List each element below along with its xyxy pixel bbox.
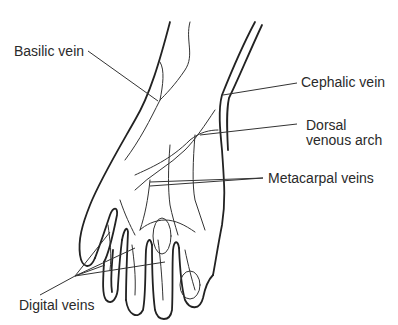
label-metacarpal-veins: Metacarpal veins: [268, 171, 374, 186]
label-dorsal-venous-arch-line2: venous arch: [306, 133, 382, 148]
label-dorsal-venous-arch-line1: Dorsal: [306, 118, 346, 133]
label-cephalic-vein: Cephalic vein: [301, 75, 385, 90]
hand-outline: [79, 22, 262, 319]
label-basilic-vein: Basilic vein: [14, 44, 84, 59]
label-digital-veins: Digital veins: [19, 298, 94, 313]
vein-network: [108, 22, 218, 300]
